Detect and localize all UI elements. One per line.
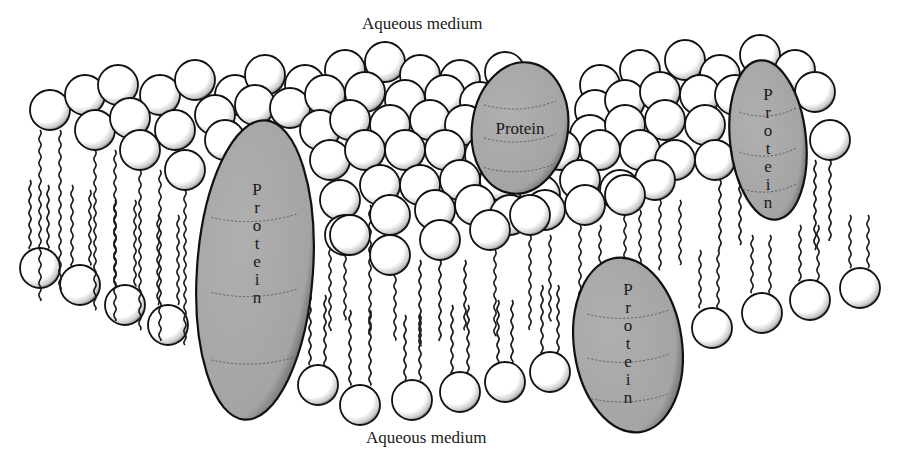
protein-label-letter: r (625, 298, 631, 317)
fatty-acid-tail (699, 250, 701, 308)
phospholipid-head (692, 308, 732, 348)
fatty-acid-tail (719, 180, 721, 250)
protein-label-letter: o (764, 121, 773, 140)
protein-label-letter: P (252, 180, 261, 199)
phospholipid-head (370, 195, 410, 235)
aqueous-medium-bottom-label: Aqueous medium (366, 428, 486, 448)
phospholipid-head (298, 365, 338, 405)
fatty-acid-tail (769, 235, 771, 293)
phospholipid-head (235, 85, 275, 125)
protein-label-letter: t (626, 334, 631, 353)
phospholipid-head (392, 380, 432, 420)
protein-bottom-right: Protein (562, 250, 693, 439)
phospholipid-head (75, 110, 115, 150)
phospholipid-head (345, 130, 385, 170)
protein-label-letter: n (624, 388, 633, 407)
protein-label-letter: n (764, 193, 773, 212)
phospholipid-head (30, 90, 70, 130)
protein-label-letter: n (253, 288, 262, 307)
phospholipid-head (470, 210, 510, 250)
fatty-acid-tail (739, 180, 741, 245)
membrane-diagram: ProteinProteinProteinProtein Aqueous med… (0, 0, 902, 464)
protein-label-letter: e (764, 157, 772, 176)
protein-label-letter: i (766, 175, 771, 194)
fatty-acid-tail (89, 190, 91, 265)
phospholipid-head (120, 130, 160, 170)
fatty-acid-tail (751, 235, 753, 293)
fatty-acid-tail (659, 200, 661, 270)
phospholipid-head (742, 293, 782, 333)
phospholipid-head (310, 140, 350, 180)
phospholipid-head (330, 215, 370, 255)
protein-label-letter: o (253, 216, 262, 235)
fatty-acid-tail (184, 190, 186, 345)
phospholipid-head (175, 60, 215, 100)
phospholipid-head (695, 140, 735, 180)
fatty-acid-tail (799, 225, 801, 281)
lower-leaflet-heads (20, 248, 880, 425)
protein-label-letter: t (255, 234, 260, 253)
phospholipid-head (605, 175, 645, 215)
phospholipid-head (510, 195, 550, 235)
protein-label-letter: i (626, 370, 631, 389)
phospholipid-head (685, 105, 725, 145)
protein-label-letter: t (766, 139, 771, 158)
phospholipid-head (60, 265, 100, 305)
phospholipid-head (530, 352, 570, 392)
fatty-acid-tail (541, 285, 543, 353)
fatty-acid-tail (717, 250, 719, 308)
fatty-acid-tail (451, 305, 453, 373)
phospholipid-head (485, 362, 525, 402)
protein-label-letter: o (624, 316, 633, 335)
fatty-acid-tail (529, 235, 531, 330)
protein-label-letter: e (624, 352, 632, 371)
fatty-acid-tail (71, 185, 73, 265)
fatty-acid-tail (464, 260, 466, 330)
fatty-acid-tail (829, 160, 831, 240)
phospholipid-head (105, 285, 145, 325)
phospholipid-head (370, 235, 410, 275)
protein-label-letter: P (763, 85, 772, 104)
fatty-acid-tail (817, 225, 819, 281)
fluid-mosaic-svg: ProteinProteinProteinProtein (0, 0, 902, 464)
fatty-acid-tail (497, 300, 499, 362)
phospholipid-head (320, 180, 360, 220)
fatty-acid-tail (47, 185, 49, 248)
fatty-acid-tail (494, 250, 496, 336)
fatty-acid-tail (849, 215, 851, 268)
protein-label: Protein (495, 119, 545, 138)
protein-label-letter: i (255, 270, 260, 289)
fatty-acid-tail (134, 200, 136, 286)
fatty-acid-tail (439, 260, 441, 340)
phospholipid-head (665, 40, 705, 80)
phospholipid-head (155, 110, 195, 150)
phospholipid-head (165, 150, 205, 190)
fatty-acid-tail (511, 300, 513, 362)
phospholipid-head (340, 385, 380, 425)
fatty-acid-tail (29, 180, 31, 248)
protein-label-letter: r (765, 103, 771, 122)
phospholipid-head (565, 185, 605, 225)
fatty-acid-tail (404, 315, 406, 380)
phospholipid-head (810, 120, 850, 160)
fatty-acid-tail (349, 310, 351, 385)
protein-label-letter: r (254, 198, 260, 217)
upper-leaflet-heads (30, 35, 850, 275)
aqueous-medium-top-label: Aqueous medium (362, 14, 482, 34)
phospholipid-head (148, 305, 188, 345)
fatty-acid-tail (324, 295, 326, 365)
phospholipid-head (790, 280, 830, 320)
fatty-acid-tail (867, 215, 869, 268)
protein-label-letter: P (623, 280, 632, 299)
fatty-acid-tail (814, 160, 816, 250)
phospholipid-head (385, 130, 425, 170)
fatty-acid-tail (177, 215, 179, 305)
phospholipid-head (420, 220, 460, 260)
fatty-acid-tail (557, 285, 559, 353)
fatty-acid-tail (679, 200, 681, 265)
phospholipid-head (840, 268, 880, 308)
phospholipid-head (440, 372, 480, 412)
fatty-acid-tail (467, 305, 469, 373)
fatty-acid-tail (549, 235, 551, 321)
protein-label-letter: e (253, 252, 261, 271)
